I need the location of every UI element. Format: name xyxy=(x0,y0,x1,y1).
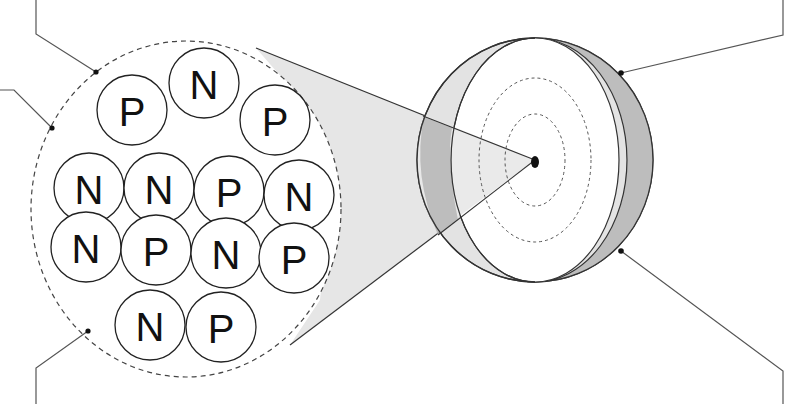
proton: P xyxy=(194,156,264,226)
leader-dot xyxy=(618,248,624,254)
neutron: N xyxy=(169,48,239,118)
atom-diagram: PNPNNPNNPNPNP xyxy=(0,0,809,404)
leader-bottom-left xyxy=(36,331,88,404)
leader-bottom-right xyxy=(621,251,783,404)
neutron: N xyxy=(191,218,261,288)
neutron-label: N xyxy=(212,233,241,277)
proton: P xyxy=(186,292,256,362)
neutron: N xyxy=(51,212,121,282)
neutron-label: N xyxy=(285,175,314,219)
proton-label: P xyxy=(208,307,235,351)
proton-label: P xyxy=(281,238,308,282)
neutron: N xyxy=(115,290,185,360)
leader-top-left-lower xyxy=(0,90,52,128)
proton: P xyxy=(240,85,310,155)
leader-dot xyxy=(618,70,624,76)
neutron-label: N xyxy=(145,168,174,212)
proton: P xyxy=(97,75,167,145)
neutron-label: N xyxy=(75,168,104,212)
proton-label: P xyxy=(262,100,289,144)
neutron-label: N xyxy=(72,227,101,271)
neutron-label: N xyxy=(136,305,165,349)
neutron: N xyxy=(264,160,334,230)
proton: P xyxy=(259,223,329,293)
proton-label: P xyxy=(143,230,170,274)
leader-dot xyxy=(85,328,90,333)
atom-disc xyxy=(400,38,653,282)
proton-label: P xyxy=(119,90,146,134)
proton: P xyxy=(121,215,191,285)
proton-label: P xyxy=(216,171,243,215)
leader-dot xyxy=(93,69,98,74)
leader-top-right xyxy=(621,0,783,73)
neutron: N xyxy=(124,153,194,223)
neutron-label: N xyxy=(190,63,219,107)
leader-top-left-upper xyxy=(36,0,96,72)
nucleus-dot xyxy=(531,156,539,168)
leader-dot xyxy=(49,125,54,130)
